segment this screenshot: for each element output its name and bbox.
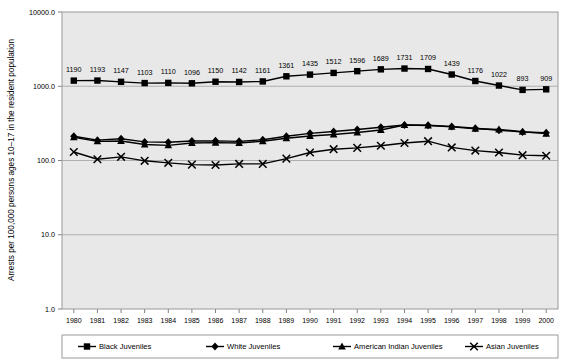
series-marker-0: [71, 77, 77, 83]
legend-label: White Juveniles: [227, 342, 280, 351]
x-tick-label-1983: 1983: [137, 317, 153, 324]
legend-label: Black Juveniles: [99, 342, 152, 351]
x-tick-label-1988: 1988: [255, 317, 271, 324]
legend-marker-square: [84, 343, 90, 349]
series-marker-11: [330, 70, 336, 76]
data-label-1985: 1096: [184, 68, 200, 77]
x-tick-label-1985: 1985: [184, 317, 200, 324]
y-tick-label-1: 1000.0: [33, 82, 55, 91]
series-marker-3: [141, 80, 147, 86]
series-marker-16: [449, 71, 455, 77]
data-label-1996: 1439: [444, 59, 460, 68]
x-tick-label-1997: 1997: [468, 317, 484, 324]
data-label-1981: 1193: [90, 65, 105, 74]
x-tick-label-1991: 1991: [326, 317, 342, 324]
series-marker-4: [165, 80, 171, 86]
series-marker-9: [283, 73, 289, 79]
series-marker-10: [307, 71, 313, 77]
y-axis-title: Arrests per 100,000 persons ages 10–17 i…: [7, 38, 16, 281]
data-label-1997: 1176: [468, 66, 483, 75]
series-marker-14: [401, 65, 407, 71]
data-label-1990: 1435: [302, 59, 318, 68]
x-tick-label-1980: 1980: [66, 317, 82, 324]
series-marker-13: [378, 66, 384, 72]
x-tick-label-1990: 1990: [302, 317, 318, 324]
data-label-1993: 1689: [373, 54, 389, 63]
x-tick-label-1981: 1981: [90, 317, 106, 324]
x-tick-label-1992: 1992: [349, 317, 365, 324]
series-marker-20: [543, 86, 549, 92]
x-tick-label-1993: 1993: [373, 317, 389, 324]
series-marker-2: [118, 79, 124, 85]
data-label-1980: 1190: [66, 65, 81, 74]
legend-label: Asian Juveniles: [486, 342, 539, 351]
x-tick-label-1989: 1989: [279, 317, 295, 324]
legend-label: American Indian Juveniles: [354, 342, 443, 351]
series-marker-6: [212, 79, 218, 85]
x-tick-label-1996: 1996: [444, 317, 460, 324]
x-tick-label-1994: 1994: [397, 317, 413, 324]
series-marker-15: [425, 66, 431, 72]
x-tick-label-1982: 1982: [113, 317, 129, 324]
series-marker-12: [354, 68, 360, 74]
x-tick-label-1999: 1999: [515, 317, 531, 324]
chart-figure: 10000.01000.0100.010.01.0 19801981198219…: [0, 0, 566, 362]
x-tick-label-1986: 1986: [208, 317, 224, 324]
data-label-2000: 909: [540, 74, 552, 83]
y-tick-label-3: 10.0: [41, 230, 55, 239]
x-tick-label-1984: 1984: [160, 317, 176, 324]
data-label-1999: 893: [517, 74, 529, 83]
data-label-1992: 1596: [349, 56, 365, 65]
series-marker-17: [472, 78, 478, 84]
x-tick-label-2000: 2000: [538, 317, 554, 324]
data-label-1991: 1512: [326, 57, 342, 66]
y-tick-label-2: 100.0: [37, 156, 55, 165]
series-marker-8: [260, 78, 266, 84]
x-tick-label-1998: 1998: [491, 317, 507, 324]
data-label-1998: 1022: [491, 70, 507, 79]
data-label-1988: 1161: [255, 66, 270, 75]
series-marker-5: [189, 80, 195, 86]
y-tick-label-4: 1.0: [45, 305, 55, 314]
data-label-1982: 1147: [113, 66, 128, 75]
data-label-1986: 1150: [208, 66, 223, 75]
series-marker-1: [94, 77, 100, 83]
data-label-1983: 1103: [137, 68, 152, 77]
data-label-1984: 1110: [161, 67, 176, 76]
data-label-1994: 1731: [396, 53, 412, 62]
x-tick-label-1987: 1987: [231, 317, 247, 324]
data-label-1987: 1142: [231, 66, 246, 75]
data-label-1989: 1361: [278, 61, 294, 70]
series-marker-19: [519, 87, 525, 93]
series-marker-18: [496, 82, 502, 88]
x-tick-label-1995: 1995: [420, 317, 436, 324]
y-tick-label-0: 10000.0: [29, 8, 55, 17]
series-marker-7: [236, 79, 242, 85]
arrest-rate-line-chart: 10000.01000.0100.010.01.0 19801981198219…: [0, 0, 566, 362]
data-label-1995: 1709: [420, 53, 436, 62]
